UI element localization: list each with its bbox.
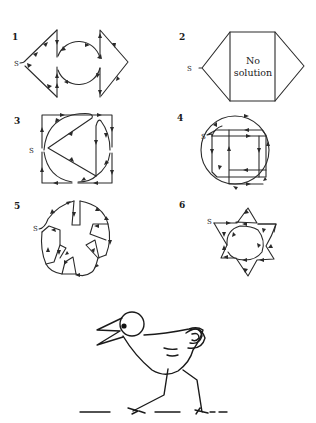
path-segment (44, 114, 96, 176)
path-segment (96, 153, 110, 176)
path-segment (25, 66, 57, 97)
direction-arrows (222, 209, 273, 273)
path-segment (44, 152, 72, 182)
puzzle-solutions-page: 1 S (0, 0, 316, 423)
no-solution-text: No (246, 55, 260, 66)
path-segment (20, 30, 57, 63)
path-segment (227, 226, 263, 260)
start-label: S (187, 65, 192, 73)
puzzle-5: 5 S (14, 201, 112, 277)
bird-body (123, 328, 203, 375)
start-label: S (207, 218, 212, 226)
puzzle-number: 5 (14, 201, 20, 211)
start-label: S (33, 225, 38, 233)
puzzle-6: 6 S (179, 200, 276, 276)
puzzle-number: 6 (179, 200, 185, 210)
start-label: S (14, 60, 19, 68)
path-segment (80, 201, 110, 255)
puzzle-3: 3 S (14, 113, 114, 185)
bird-eye (121, 323, 126, 328)
path-segment (62, 257, 76, 274)
puzzle-number: 2 (179, 32, 185, 42)
path-segment (42, 226, 60, 264)
puzzle-4: 4 S (177, 113, 270, 190)
path-segment (42, 115, 112, 148)
no-solution-text: solution (234, 67, 272, 78)
bird-wing (164, 348, 178, 356)
path-segment (212, 130, 266, 184)
path-segment (78, 120, 110, 182)
bird-beak (97, 318, 123, 345)
bird-leg (183, 370, 208, 414)
path-segment (39, 201, 74, 229)
path-segment (100, 30, 128, 96)
path-segment (214, 208, 257, 223)
puzzle-number: 1 (12, 32, 18, 42)
puzzle-2: 2 S No solution (179, 32, 304, 101)
bird-illustration (80, 312, 227, 414)
direction-arrows (210, 114, 270, 190)
path-segment (60, 245, 66, 258)
path-segment (42, 152, 72, 183)
puzzle-1: 1 S (12, 30, 128, 97)
puzzle-number: 3 (14, 116, 20, 126)
puzzle-number: 4 (177, 113, 183, 123)
bird-leg (128, 369, 168, 414)
path-segment (86, 240, 106, 258)
path-segment (76, 258, 98, 276)
start-label: S (29, 147, 34, 155)
